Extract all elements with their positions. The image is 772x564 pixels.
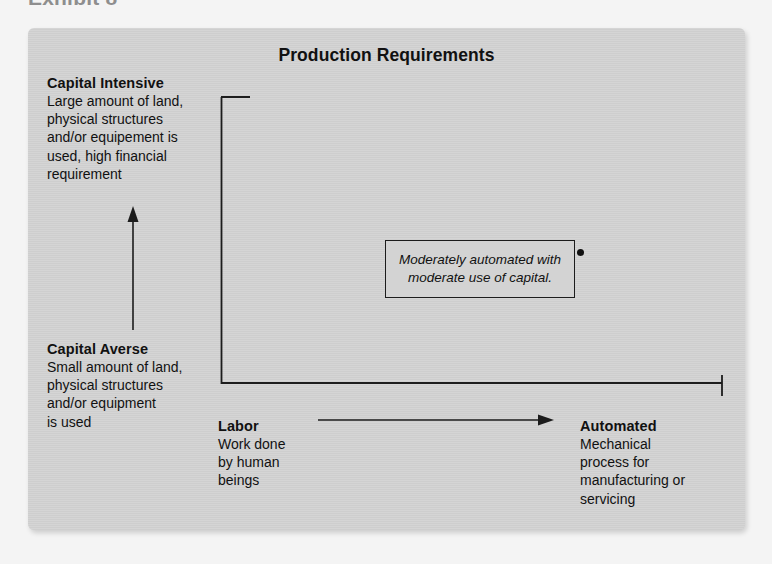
capital-intensive-description: Large amount of land, physical structure…: [47, 92, 229, 183]
callout-text: Moderately automated with moderate use o…: [394, 251, 566, 287]
labor-title: Labor: [218, 418, 338, 434]
capital-averse-title: Capital Averse: [47, 341, 229, 357]
exhibit-panel: Production Requirements Capital Intensiv…: [28, 28, 745, 530]
exhibit-caption: Exhibit 8: [28, 0, 117, 10]
callout-box: Moderately automated with moderate use o…: [385, 240, 575, 298]
capital-averse-description: Small amount of land, physical structure…: [47, 358, 229, 431]
axis-label-labor: Labor Work done by human beings: [218, 418, 338, 490]
axis-label-capital-averse: Capital Averse Small amount of land, phy…: [47, 341, 229, 431]
automated-title: Automated: [580, 418, 730, 434]
capital-intensive-title: Capital Intensive: [47, 75, 229, 91]
data-point-marker: [577, 249, 584, 256]
automated-description: Mechanical process for manufacturing or …: [580, 435, 730, 508]
axis-label-automated: Automated Mechanical process for manufac…: [580, 418, 730, 508]
labor-description: Work done by human beings: [218, 435, 338, 490]
axis-label-capital-intensive: Capital Intensive Large amount of land, …: [47, 75, 229, 183]
